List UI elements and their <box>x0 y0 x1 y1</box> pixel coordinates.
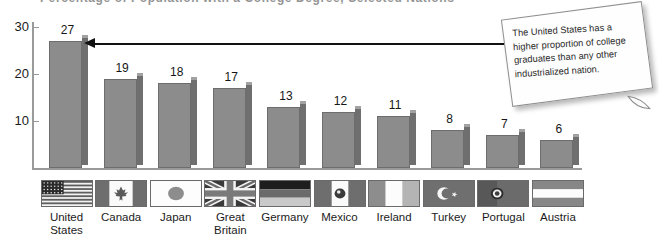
note-curl-icon <box>627 93 651 113</box>
y-axis-line <box>32 22 34 169</box>
bar-value-label: 13 <box>266 90 306 102</box>
callout-arrow-line <box>91 43 513 45</box>
flag-ireland-icon <box>368 180 420 207</box>
bar-side-face <box>246 85 252 165</box>
bar-front-face <box>486 135 519 168</box>
callout-note: The United States has a higher proportio… <box>506 10 654 108</box>
flag-germany-icon <box>259 180 311 207</box>
flag-canada-icon <box>95 180 147 207</box>
bar-germany[interactable] <box>267 103 300 168</box>
bar-value-label: 12 <box>321 95 361 107</box>
y-tick-mark <box>33 74 39 76</box>
flag-austria-icon <box>532 180 584 207</box>
bar-front-face <box>540 140 573 168</box>
bar-value-label: 18 <box>157 66 197 78</box>
bar-value-label: 8 <box>430 113 470 125</box>
bar-great-britain[interactable] <box>213 84 246 168</box>
bar-canada[interactable] <box>104 75 137 168</box>
bar-japan[interactable] <box>158 79 191 168</box>
y-tick-mark <box>33 27 39 29</box>
bar-front-face <box>377 116 410 168</box>
flag-great-britain-icon <box>204 180 256 207</box>
country-label-line2: States <box>30 224 104 237</box>
bar-front-face <box>158 83 191 168</box>
y-tick-mark <box>33 121 39 123</box>
bar-front-face <box>104 79 137 168</box>
bar-mexico[interactable] <box>322 108 355 168</box>
chart-screenshot: Percentage of Population with a College … <box>0 0 659 242</box>
bar-portugal[interactable] <box>486 131 519 168</box>
bar-side-face <box>519 132 525 165</box>
bar-front-face <box>322 112 355 168</box>
country-label-line2: Britain <box>193 224 267 237</box>
bar-value-label: 7 <box>484 118 524 130</box>
country-label-line1: Austria <box>521 211 595 224</box>
bar-front-face <box>213 88 246 168</box>
bar-front-face <box>431 130 464 168</box>
bar-side-face <box>191 80 197 165</box>
y-tick-label: 20 <box>3 67 29 80</box>
bar-side-face <box>355 109 361 165</box>
callout-arrow-head <box>84 38 95 48</box>
y-tick-label: 30 <box>3 20 29 33</box>
flag-turkey-icon <box>423 180 475 207</box>
bar-turkey[interactable] <box>431 126 464 168</box>
x-axis-baseline <box>32 168 582 170</box>
bar-ireland[interactable] <box>377 112 410 168</box>
bar-value-label: 11 <box>375 99 415 111</box>
callout-note-paper: The United States has a higher proportio… <box>501 1 653 107</box>
bar-side-face <box>410 113 416 165</box>
bar-side-face <box>300 104 306 165</box>
bar-front-face <box>49 41 82 168</box>
bar-value-label: 6 <box>539 123 579 135</box>
bar-austria[interactable] <box>540 136 573 168</box>
bar-side-face <box>464 127 470 165</box>
y-tick-label: 10 <box>3 114 29 127</box>
bar-front-face <box>267 107 300 168</box>
bar-united-states[interactable] <box>49 37 82 168</box>
flag-mexico-icon <box>314 180 366 207</box>
bar-side-face <box>137 76 143 165</box>
callout-note-text: The United States has a higher proportio… <box>512 20 641 82</box>
flag-united-states-icon <box>41 180 93 207</box>
bar-side-face <box>82 38 88 165</box>
flag-portugal-icon <box>477 180 529 207</box>
flag-japan-icon <box>150 180 202 207</box>
bar-side-face <box>573 137 579 165</box>
bar-value-label: 19 <box>102 62 142 74</box>
country-label-austria: Austria <box>521 211 595 224</box>
bar-value-label: 27 <box>48 24 88 36</box>
bar-value-label: 17 <box>211 71 251 83</box>
